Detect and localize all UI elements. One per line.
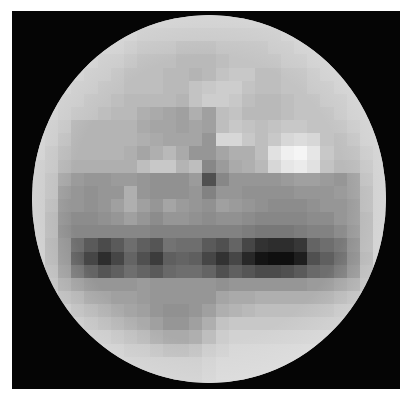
limb-shading <box>32 15 386 383</box>
pixel-cell <box>320 344 333 357</box>
pixel-cell <box>373 344 386 357</box>
pixel-cell <box>98 28 111 41</box>
pixel-cell <box>360 54 373 67</box>
pixel-cell <box>71 344 84 357</box>
pixel-cell <box>71 15 84 28</box>
pixel-cell <box>373 357 386 370</box>
pixel-cell <box>45 330 58 343</box>
pixel-cell <box>307 15 320 28</box>
pixel-cell <box>58 344 71 357</box>
pixel-cell <box>58 41 71 54</box>
pixel-cell <box>360 15 373 28</box>
pixel-cell <box>320 357 333 370</box>
pixel-cell <box>32 344 45 357</box>
pixel-cell <box>334 330 347 343</box>
pixel-cell <box>373 81 386 94</box>
pixel-cell <box>373 54 386 67</box>
pixel-cell <box>373 94 386 107</box>
pixel-cell <box>98 370 111 383</box>
pixel-cell <box>32 94 45 107</box>
pixel-cell <box>32 317 45 330</box>
pixel-cell <box>347 317 360 330</box>
pixel-cell <box>373 278 386 291</box>
pixel-cell <box>32 357 45 370</box>
pixel-cell <box>32 68 45 81</box>
pixel-cell <box>45 317 58 330</box>
pixel-cell <box>347 15 360 28</box>
pixel-cell <box>373 317 386 330</box>
pixel-cell <box>84 344 97 357</box>
pixel-cell <box>373 41 386 54</box>
pixel-cell <box>71 28 84 41</box>
pixel-cell <box>347 357 360 370</box>
pixel-cell <box>45 15 58 28</box>
pixel-cell <box>98 15 111 28</box>
pixel-cell <box>360 317 373 330</box>
pixel-cell <box>58 28 71 41</box>
pixel-cell <box>334 41 347 54</box>
pixel-cell <box>360 370 373 383</box>
pixel-cell <box>124 15 137 28</box>
pixel-cell <box>347 344 360 357</box>
pixel-cell <box>71 357 84 370</box>
pixel-cell <box>373 120 386 133</box>
pixel-cell <box>58 317 71 330</box>
pixel-cell <box>360 357 373 370</box>
pixel-cell <box>124 370 137 383</box>
pixel-cell <box>32 107 45 120</box>
pixel-cell <box>373 291 386 304</box>
pixel-cell <box>334 344 347 357</box>
pixel-cell <box>58 54 71 67</box>
pixel-cell <box>320 28 333 41</box>
pixel-cell <box>58 15 71 28</box>
pixel-cell <box>307 28 320 41</box>
pixel-cell <box>347 330 360 343</box>
pixel-cell <box>281 15 294 28</box>
pixel-cell <box>32 304 45 317</box>
pixel-cell <box>45 54 58 67</box>
pixel-cell <box>320 41 333 54</box>
pixel-cell <box>45 357 58 370</box>
pixel-cell <box>360 304 373 317</box>
pixel-cell <box>347 28 360 41</box>
pixel-cell <box>373 28 386 41</box>
pixel-cell <box>45 28 58 41</box>
pixel-cell <box>58 357 71 370</box>
pixel-cell <box>373 15 386 28</box>
pixel-cell <box>334 15 347 28</box>
pixel-cell <box>58 370 71 383</box>
pixel-cell <box>360 41 373 54</box>
pixel-cell <box>98 357 111 370</box>
pixel-cell <box>294 15 307 28</box>
pixel-cell <box>268 370 281 383</box>
pixel-cell <box>32 265 45 278</box>
pixel-cell <box>32 54 45 67</box>
image-frame <box>12 11 400 389</box>
pixel-cell <box>32 15 45 28</box>
pixel-cell <box>45 68 58 81</box>
pixel-cell <box>360 28 373 41</box>
pixel-cell <box>360 81 373 94</box>
pixel-cell <box>373 304 386 317</box>
pixel-cell <box>347 370 360 383</box>
pixel-cell <box>373 107 386 120</box>
pixel-cell <box>58 330 71 343</box>
pixel-cell <box>32 291 45 304</box>
pixel-cell <box>32 278 45 291</box>
pixel-cell <box>334 54 347 67</box>
pixel-cell <box>307 357 320 370</box>
pixel-cell <box>32 41 45 54</box>
pixel-cell <box>373 68 386 81</box>
pixel-cell <box>320 370 333 383</box>
pixel-cell <box>347 54 360 67</box>
pixel-cell <box>111 15 124 28</box>
pixel-cell <box>281 370 294 383</box>
pixel-cell <box>360 68 373 81</box>
pixel-cell <box>84 357 97 370</box>
pixel-cell <box>45 41 58 54</box>
pixel-cell <box>71 54 84 67</box>
pixel-cell <box>71 330 84 343</box>
pixel-cell <box>84 28 97 41</box>
pixel-cell <box>45 370 58 383</box>
pixel-cell <box>360 344 373 357</box>
